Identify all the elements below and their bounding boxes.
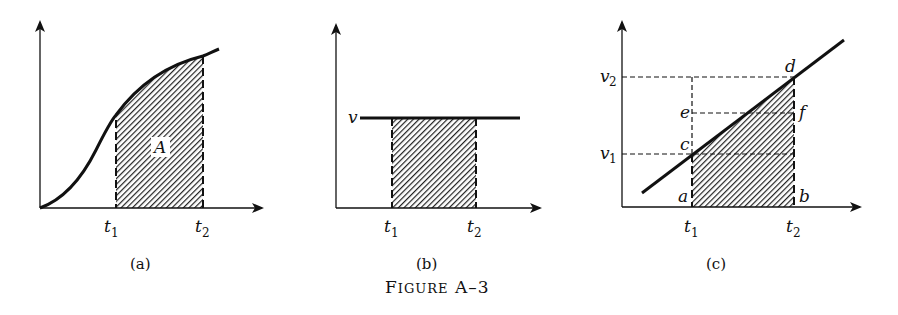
- caption-c: (c): [706, 255, 726, 273]
- svg-text:1: 1: [609, 152, 617, 166]
- label-v2: v 2: [600, 66, 617, 89]
- svg-text:t: t: [195, 216, 202, 236]
- svg-text:2: 2: [793, 226, 801, 240]
- svg-text:t: t: [467, 216, 474, 236]
- tick-t1: t 1: [384, 216, 399, 240]
- figure-canvas: A t 1 t 2 (a) v t 1 t 2 (b) FIGURE A–3: [0, 0, 898, 315]
- point-d: d: [785, 56, 796, 76]
- v-label: v: [348, 107, 358, 127]
- panel-c: v 2 v 1 a b c d e f t 1 t 2 (c): [600, 22, 860, 273]
- tick-t2: t 2: [467, 216, 482, 240]
- point-e: e: [680, 102, 690, 122]
- svg-text:2: 2: [609, 75, 617, 89]
- point-c: c: [680, 134, 690, 154]
- svg-text:1: 1: [391, 226, 399, 240]
- panel-b: v t 1 t 2 (b) FIGURE A–3: [336, 25, 540, 297]
- point-f: f: [797, 102, 808, 122]
- point-a: a: [678, 186, 688, 206]
- tick-t2: t 2: [195, 216, 210, 240]
- svg-text:t: t: [684, 216, 691, 236]
- svg-text:2: 2: [474, 226, 482, 240]
- svg-text:1: 1: [691, 226, 699, 240]
- area-label: A: [152, 137, 166, 157]
- tick-t1: t 1: [684, 216, 699, 240]
- svg-text:t: t: [786, 216, 793, 236]
- area-b-hatched: [392, 118, 476, 208]
- tick-t2: t 2: [786, 216, 801, 240]
- svg-text:1: 1: [111, 226, 119, 240]
- svg-text:t: t: [384, 216, 391, 236]
- tick-t1: t 1: [104, 216, 119, 240]
- caption-a: (a): [130, 255, 151, 273]
- figure-title: FIGURE A–3: [385, 277, 490, 297]
- caption-b: (b): [416, 255, 437, 273]
- panel-a: A t 1 t 2 (a): [40, 22, 262, 273]
- svg-text:t: t: [104, 216, 111, 236]
- area-a-hatched: [116, 56, 203, 208]
- svg-text:2: 2: [202, 226, 210, 240]
- label-v1: v 1: [600, 143, 617, 166]
- point-b: b: [799, 186, 810, 206]
